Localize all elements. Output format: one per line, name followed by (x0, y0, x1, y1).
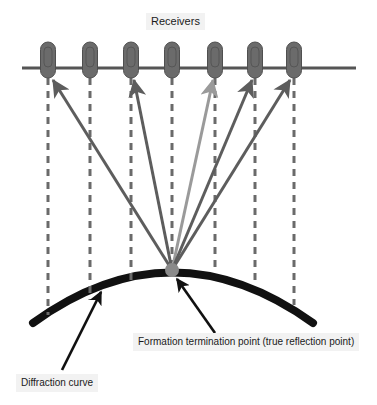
diffraction-curve (33, 273, 313, 324)
receiver-array (41, 42, 302, 78)
receiver-3[interactable] (124, 42, 139, 78)
diagram-canvas: Receivers Formation termination point (t… (0, 0, 377, 405)
receiver-2[interactable] (83, 42, 98, 78)
receivers-title: Receivers (146, 13, 205, 30)
receiver-7[interactable] (287, 42, 302, 78)
reflection-point-marker[interactable] (165, 263, 179, 277)
ray-to-receiver-6 (172, 80, 252, 270)
receiver-1[interactable] (41, 42, 56, 78)
ray-to-receiver-7 (172, 80, 290, 270)
receiver-4[interactable] (165, 42, 180, 78)
diffraction-curve-label: Diffraction curve (16, 374, 98, 392)
formation-pointer-arrow (177, 279, 215, 333)
dashed-projection-lines (48, 78, 294, 315)
receiver-6[interactable] (248, 42, 263, 78)
receiver-5[interactable] (208, 42, 223, 78)
formation-termination-point-label: Formation termination point (true reflec… (133, 333, 359, 351)
ray-to-receiver-5 (172, 80, 213, 270)
